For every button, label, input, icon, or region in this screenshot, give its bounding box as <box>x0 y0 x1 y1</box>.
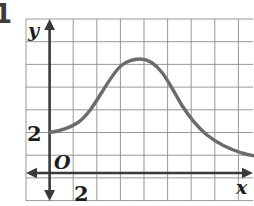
function-curve <box>24 18 254 202</box>
y-axis-tick-label-2: 2 <box>27 121 42 146</box>
x-axis-tick-label-2: 2 <box>74 181 89 206</box>
x-axis-label: x <box>236 176 247 198</box>
origin-label: O <box>54 151 71 173</box>
plot-area: y x O 2 2 <box>24 18 254 202</box>
graph-figure: 1. <box>0 0 254 206</box>
y-axis-label: y <box>28 19 39 41</box>
problem-number-label: 1. <box>0 0 12 32</box>
